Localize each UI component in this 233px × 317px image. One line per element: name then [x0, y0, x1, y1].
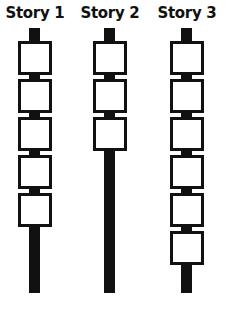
- story-column-2: Story 2: [80, 0, 140, 317]
- story-column-3: Story 3: [157, 0, 217, 317]
- story-box: [170, 41, 204, 75]
- story-box: [18, 79, 52, 113]
- story-box: [170, 193, 204, 227]
- story-title: Story 3: [147, 4, 227, 22]
- story-box: [18, 117, 52, 151]
- story-box: [18, 155, 52, 189]
- story-box: [170, 155, 204, 189]
- story-column-1: Story 1: [5, 0, 65, 317]
- story-box: [18, 41, 52, 75]
- story-box: [18, 193, 52, 227]
- story-box: [170, 79, 204, 113]
- story-title: Story 2: [70, 4, 150, 22]
- story-box: [170, 117, 204, 151]
- story-box: [93, 41, 127, 75]
- story-box: [93, 79, 127, 113]
- story-box: [93, 117, 127, 151]
- story-box: [170, 231, 204, 265]
- story-title: Story 1: [0, 4, 75, 22]
